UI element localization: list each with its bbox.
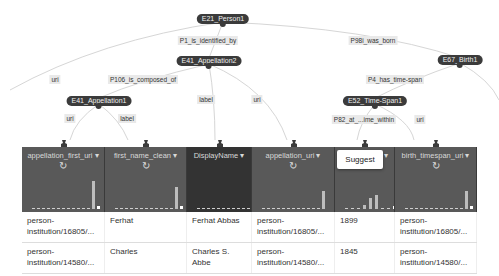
- column-header[interactable]: DisplayName ▾: [187, 147, 252, 212]
- edge-label[interactable]: P82_at_...ime_within: [332, 115, 396, 124]
- graph-node[interactable]: E52_Time-Span1: [343, 96, 407, 106]
- edge-label[interactable]: P4_has_time-span: [366, 75, 424, 84]
- edge-label[interactable]: label: [118, 114, 136, 123]
- column-anchor-icon[interactable]: [432, 136, 440, 146]
- table-row: person-institution/14580/...CharlesCharl…: [22, 243, 477, 274]
- edge-label[interactable]: P98i_was_born: [349, 36, 398, 45]
- edge-label[interactable]: P106_is_composed_of: [108, 75, 178, 84]
- table-cell: Ferhat: [105, 212, 187, 242]
- graph-links: [0, 0, 499, 147]
- table-cell: 1845: [335, 243, 395, 273]
- table-cell: Ferhat Abbas: [187, 212, 252, 242]
- column-title[interactable]: DisplayName ▾: [187, 151, 251, 160]
- table-cell: Charles: [105, 243, 187, 273]
- column-anchor-icon[interactable]: [216, 136, 224, 146]
- edge-label[interactable]: uri: [251, 95, 262, 104]
- edge-label[interactable]: uri: [49, 75, 60, 84]
- table-row: person-institution/16805/...FerhatFerhat…: [22, 212, 477, 243]
- column-anchor-icon[interactable]: [142, 136, 150, 146]
- column-title[interactable]: appellation_uri ▾: [252, 151, 334, 160]
- data-table: appellation_first_uri ▾↻first_name_clean…: [22, 147, 477, 274]
- column-header[interactable]: appellation_first_uri ▾↻: [22, 147, 105, 212]
- table-cell: person-institution/14580/...: [22, 243, 105, 273]
- table-cell: 1899: [335, 212, 395, 242]
- graph-node[interactable]: E67_Birth1: [438, 55, 483, 65]
- histogram: [105, 162, 187, 212]
- edge-label[interactable]: P1_is_identified_by: [178, 36, 238, 45]
- graph-node[interactable]: E41_Appellation2: [177, 56, 242, 66]
- histogram: [22, 162, 105, 212]
- column-anchor-icon[interactable]: [290, 136, 298, 146]
- column-title[interactable]: birth_timespan_uri ▾: [395, 151, 476, 160]
- column-header[interactable]: first_name_clean ▾↻: [105, 147, 187, 212]
- graph-node[interactable]: E21_Person1: [197, 14, 249, 24]
- table-cell: person-institution/16805/...: [395, 212, 477, 242]
- histogram: [252, 162, 335, 212]
- table-cell: person-institution/16805/...: [252, 212, 335, 242]
- histogram: [335, 162, 395, 212]
- column-header[interactable]: birth_timespan_uri ▾↻: [395, 147, 477, 212]
- column-anchor-icon[interactable]: [60, 136, 68, 146]
- edge-label[interactable]: uri: [64, 114, 75, 123]
- edge-label[interactable]: uri: [414, 115, 425, 124]
- histogram: [395, 162, 477, 212]
- suggest-button[interactable]: Suggest: [337, 150, 383, 169]
- column-header[interactable]: appellation_uri ▾↻: [252, 147, 335, 212]
- column-anchor-icon[interactable]: [361, 136, 369, 146]
- table-cell: person-institution/14580/...: [252, 243, 335, 273]
- table-cell: person-institution/16805/...: [22, 212, 105, 242]
- semantic-model-graph: E21_Person1E41_Appellation2E41_Appellati…: [0, 0, 499, 147]
- column-title[interactable]: appellation_first_uri ▾: [22, 151, 104, 160]
- edge-label[interactable]: label: [197, 95, 215, 104]
- table-cell: person-institution/14580/...: [395, 243, 477, 273]
- column-headers: appellation_first_uri ▾↻first_name_clean…: [22, 147, 477, 212]
- histogram: [187, 162, 252, 212]
- column-title[interactable]: first_name_clean ▾: [105, 151, 186, 160]
- table-cell: Charles S. Abbe: [187, 243, 252, 273]
- graph-node[interactable]: E41_Appellation1: [67, 96, 132, 106]
